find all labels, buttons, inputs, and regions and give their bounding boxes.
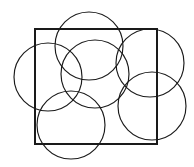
circle-top: [55, 12, 123, 80]
circle-bottom: [37, 91, 105, 159]
circle-upper-right: [116, 29, 184, 97]
circle-left: [14, 43, 82, 111]
circle-lower-right: [118, 72, 186, 140]
square-outline: [35, 29, 157, 144]
geometric-figure-canvas: [0, 0, 194, 167]
figure-svg: [0, 0, 194, 167]
